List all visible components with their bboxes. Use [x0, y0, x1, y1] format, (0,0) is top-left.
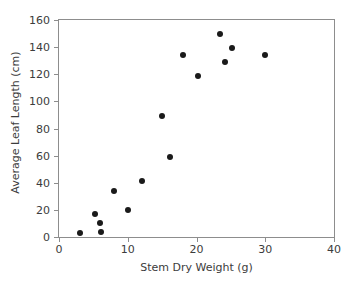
x-tick-label: 10: [121, 244, 135, 255]
x-tick-mark: [334, 237, 335, 242]
x-tick-label: 20: [190, 244, 204, 255]
x-tick-mark: [197, 237, 198, 242]
data-point: [180, 52, 186, 58]
x-tick-label: 40: [327, 244, 341, 255]
data-point: [222, 59, 228, 65]
data-point: [139, 178, 145, 184]
data-point: [262, 52, 268, 58]
x-tick-mark: [59, 237, 60, 242]
data-point: [229, 45, 235, 51]
x-tick-label: 30: [258, 244, 272, 255]
y-tick-label: 80: [36, 123, 50, 134]
y-tick-label: 60: [36, 150, 50, 161]
y-tick-label: 140: [29, 42, 50, 53]
data-point: [167, 154, 173, 160]
y-tick-label: 100: [29, 96, 50, 107]
data-point: [195, 73, 201, 79]
data-points-layer: [59, 20, 334, 237]
y-tick-label: 0: [43, 232, 50, 243]
data-point: [92, 211, 98, 217]
y-tick-label: 20: [36, 204, 50, 215]
data-point: [217, 31, 223, 37]
data-point: [97, 220, 103, 226]
x-tick-mark: [265, 237, 266, 242]
data-point: [125, 207, 131, 213]
data-point: [77, 230, 83, 236]
x-tick-mark: [128, 237, 129, 242]
data-point: [111, 188, 117, 194]
y-tick-label: 40: [36, 177, 50, 188]
y-tick-label: 160: [29, 15, 50, 26]
plot-area: 020406080100120140160 010203040: [58, 19, 335, 238]
x-axis-title: Stem Dry Weight (g): [58, 262, 335, 273]
data-point: [159, 113, 165, 119]
x-tick-label: 0: [56, 244, 63, 255]
scatter-plot-figure: 020406080100120140160 010203040 Stem Dry…: [0, 0, 357, 286]
data-point: [98, 229, 104, 235]
y-tick-label: 120: [29, 69, 50, 80]
y-axis-title: Average Leaf Length (cm): [10, 13, 24, 232]
